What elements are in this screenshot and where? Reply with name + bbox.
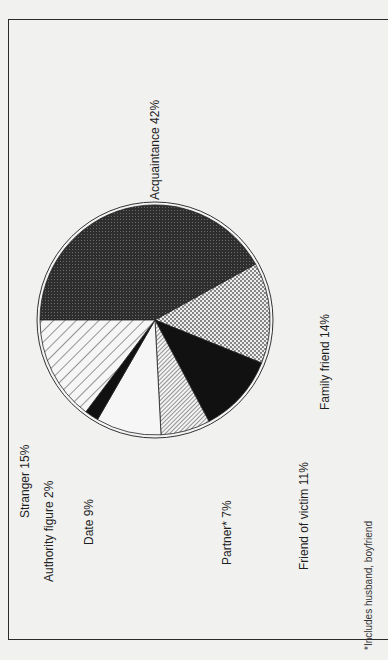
label-partner: Partner* 7%: [220, 500, 234, 565]
label-authority-figure: Authority figure 2%: [42, 481, 56, 582]
label-acquaintance: Acquaintance 42%: [148, 100, 162, 200]
label-family-friend: Family friend 14%: [318, 314, 332, 410]
label-friend-of-victim: Friend of victim 11%: [297, 462, 311, 570]
footnote: *Includes husband, boyfriend: [363, 521, 374, 650]
label-date: Date 9%: [82, 499, 96, 545]
label-stranger: Stranger 15%: [18, 445, 32, 518]
